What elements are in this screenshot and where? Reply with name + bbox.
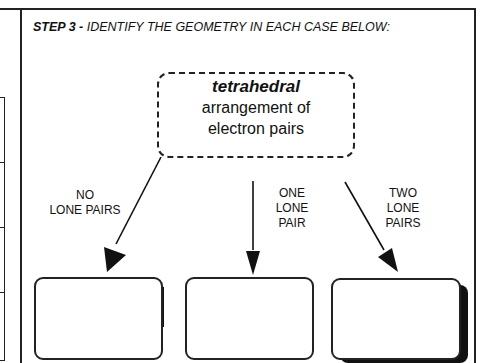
label-line: LONE: [262, 201, 322, 216]
answer-box-one-lone-pair[interactable]: [185, 277, 314, 360]
label-line: LONE PAIRS: [30, 203, 140, 218]
label-line: TWO: [373, 186, 433, 201]
branch-label-no-lone-pairs: NO LONE PAIRS: [30, 188, 140, 218]
arrow-one-lone-pair-icon: [246, 181, 260, 275]
label-line: PAIR: [262, 216, 322, 231]
answer-box-two-lone-pairs[interactable]: [331, 278, 461, 360]
answer-box-no-lone-pairs[interactable]: [34, 277, 163, 360]
label-line: LONE: [373, 201, 433, 216]
branch-label-one-lone-pair: ONE LONE PAIR: [262, 186, 322, 231]
branch-label-two-lone-pairs: TWO LONE PAIRS: [373, 186, 433, 231]
label-line: NO: [30, 188, 140, 203]
label-line: PAIRS: [373, 216, 433, 231]
label-line: ONE: [262, 186, 322, 201]
